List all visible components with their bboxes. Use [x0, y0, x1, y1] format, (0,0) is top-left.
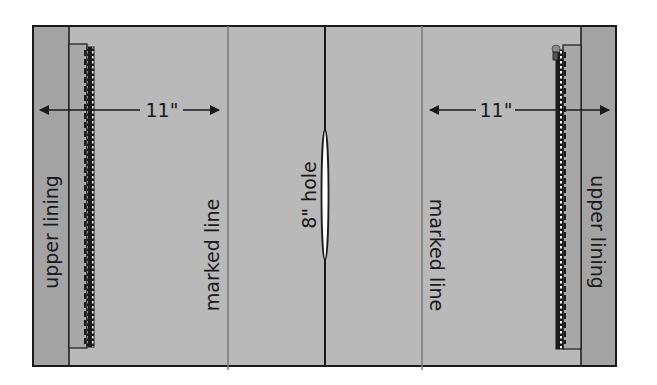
zipper-pattern-diagram: 11" 11" upper lining marked line 8" hole…: [0, 0, 657, 385]
left-measure-label: 11": [146, 99, 179, 121]
left-zipper: [69, 44, 94, 348]
right-zipper-teeth: [556, 50, 563, 349]
right-upper-lining-label: upper lining: [587, 175, 609, 289]
left-upper-lining-label: upper lining: [40, 175, 62, 289]
right-marked-line-label: marked line: [426, 199, 448, 311]
center-hole-label: 8" hole: [298, 161, 320, 229]
right-zipper: [552, 45, 581, 349]
left-zipper-teeth: [87, 47, 94, 347]
center-hole: [322, 130, 329, 260]
left-marked-line-label: marked line: [201, 199, 223, 311]
right-measure-label: 11": [480, 99, 513, 121]
